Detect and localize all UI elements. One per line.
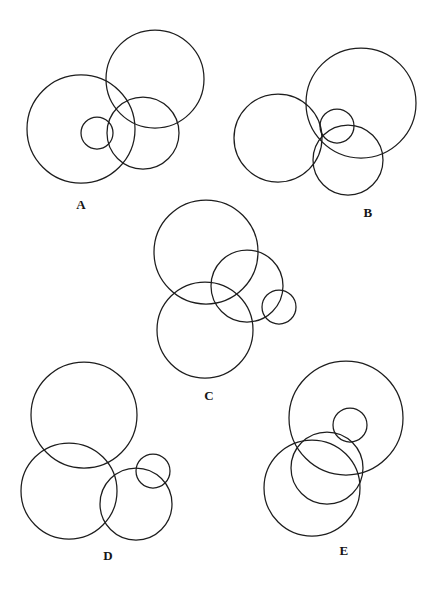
panel-label-a: A <box>76 197 86 213</box>
circle-e-large-top <box>289 361 403 475</box>
circle-c-medium <box>211 250 283 322</box>
circle-d-small <box>136 454 170 488</box>
circle-d-large-top <box>31 362 137 468</box>
panel-label-b: B <box>364 205 373 221</box>
circles-diagram <box>0 0 437 590</box>
circle-a-large-top-right <box>106 30 204 128</box>
panel-e-circles <box>264 361 403 536</box>
panel-b-circles <box>234 48 416 195</box>
figure-sheet: A B C D E <box>0 0 437 590</box>
circle-e-large-bottom <box>264 440 360 536</box>
circle-d-medium <box>100 468 172 540</box>
panel-a-circles <box>27 30 204 183</box>
circle-b-large-left <box>234 94 322 182</box>
circle-c-large-bottom <box>157 282 253 378</box>
circle-b-small <box>320 109 354 143</box>
panel-d-circles <box>21 362 172 540</box>
circle-a-small <box>81 117 113 149</box>
circle-c-large-top <box>154 200 258 304</box>
circle-c-small <box>262 290 296 324</box>
circle-a-medium <box>107 97 179 169</box>
circle-e-small <box>333 408 367 442</box>
panel-c-circles <box>154 200 296 378</box>
panel-label-c: C <box>204 388 214 404</box>
panel-label-d: D <box>103 548 113 564</box>
circle-b-large-right <box>306 48 416 158</box>
panel-label-e: E <box>340 543 349 559</box>
